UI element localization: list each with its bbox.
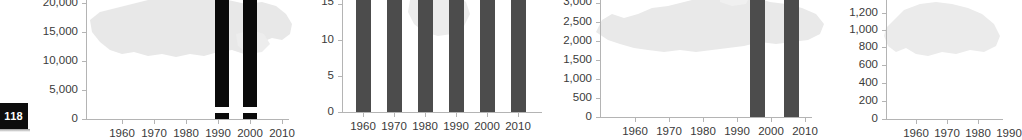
chart-panel-4: 0 200 400 600 800 1,000 1,200 1960 1970 … <box>830 0 1003 140</box>
y-tick-label-3-0: 0 <box>550 111 592 123</box>
x-tick-label-3-1980: 1980 <box>690 126 716 138</box>
x-axis-4 <box>886 119 1003 120</box>
y-tick-label-4-4: 800 <box>830 41 878 53</box>
chart-panel-1: 0 5,000 10,000 15,000 20,000 1960 1970 1… <box>0 0 300 140</box>
x-tick-2-1980 <box>425 112 426 117</box>
y-tick-1-4 <box>82 3 87 4</box>
y-tick-4-3 <box>882 65 887 66</box>
y-tick-3-1 <box>596 98 601 99</box>
bar-3-2010 <box>784 0 799 117</box>
x-tick-label-2-1970: 1970 <box>381 121 407 133</box>
y-tick-label-4-0: 0 <box>830 113 878 125</box>
map-silhouette-1 <box>86 0 300 72</box>
x-tick-label-1-1970: 1970 <box>141 128 167 140</box>
y-tick-2-3 <box>338 4 343 5</box>
x-tick-1-1990 <box>218 119 219 124</box>
y-tick-4-2 <box>882 83 887 84</box>
y-tick-4-6 <box>882 13 887 14</box>
y-tick-2-0 <box>338 112 343 113</box>
bar-1-2010 <box>243 0 257 119</box>
y-tick-label-2-3: 15 <box>300 0 334 8</box>
bar-2-2010 <box>511 0 526 112</box>
x-tick-4-1960 <box>916 119 917 124</box>
x-tick-1-2010 <box>282 119 283 124</box>
x-axis-1 <box>86 119 289 120</box>
x-tick-3-1970 <box>669 117 670 122</box>
x-tick-1-1960 <box>122 119 123 124</box>
x-tick-3-1980 <box>703 117 704 122</box>
x-axis-2 <box>342 112 542 113</box>
bar-2-1970 <box>387 0 402 112</box>
bar-2-1990 <box>449 0 464 112</box>
map-silhouette-4 <box>878 0 1008 76</box>
x-tick-2-1990 <box>456 112 457 117</box>
x-tick-label-4-1970: 1970 <box>934 128 960 140</box>
x-tick-2-1970 <box>394 112 395 117</box>
y-tick-4-1 <box>882 101 887 102</box>
bar-2-2000 <box>480 0 495 112</box>
bar-1-2000-gap <box>215 107 229 113</box>
y-tick-1-3 <box>82 32 87 33</box>
y-tick-label-3-3: 1,500 <box>550 54 592 66</box>
x-tick-label-3-2000: 2000 <box>758 126 784 138</box>
y-tick-label-3-6: 3,000 <box>550 0 592 8</box>
x-tick-label-1-1960: 1960 <box>109 128 135 140</box>
map-silhouette-2 <box>400 0 480 45</box>
y-tick-2-2 <box>338 40 343 41</box>
x-tick-3-1990 <box>737 117 738 122</box>
x-tick-label-3-1970: 1970 <box>656 126 682 138</box>
y-tick-label-4-1: 200 <box>830 95 878 107</box>
x-tick-1-1980 <box>186 119 187 124</box>
x-tick-label-4-1980: 1980 <box>965 128 991 140</box>
y-tick-1-1 <box>82 90 87 91</box>
x-tick-4-1970 <box>947 119 948 124</box>
x-tick-2-2010 <box>518 112 519 117</box>
x-tick-4-1980 <box>978 119 979 124</box>
y-tick-4-4 <box>882 47 887 48</box>
y-tick-label-2-2: 10 <box>300 34 334 46</box>
y-tick-label-2-1: 5 <box>300 70 334 82</box>
x-axis-3 <box>600 117 812 118</box>
x-tick-2-2000 <box>487 112 488 117</box>
y-tick-3-4 <box>596 41 601 42</box>
y-axis-3 <box>600 0 601 117</box>
y-tick-label-1-1: 5,000 <box>0 84 78 96</box>
y-tick-2-1 <box>338 76 343 77</box>
y-tick-label-2-0: 0 <box>300 106 334 118</box>
x-tick-3-2010 <box>805 117 806 122</box>
x-tick-3-2000 <box>771 117 772 122</box>
y-tick-1-2 <box>82 61 87 62</box>
x-tick-label-4-1990: 1990 <box>996 128 1022 140</box>
y-tick-1-0 <box>82 119 87 120</box>
x-tick-label-2-1990: 1990 <box>443 121 469 133</box>
y-axis-1 <box>86 0 87 119</box>
y-tick-label-3-2: 1,000 <box>550 73 592 85</box>
y-tick-label-4-5: 1,000 <box>830 24 878 36</box>
y-tick-3-5 <box>596 22 601 23</box>
y-tick-label-3-4: 2,000 <box>550 35 592 47</box>
y-tick-label-1-3: 15,000 <box>0 26 78 38</box>
y-tick-label-3-1: 500 <box>550 92 592 104</box>
y-tick-3-2 <box>596 79 601 80</box>
y-tick-4-5 <box>882 30 887 31</box>
y-tick-label-1-0: 0 <box>0 113 78 125</box>
x-tick-3-1960 <box>635 117 636 122</box>
x-tick-label-3-2010: 2010 <box>792 126 818 138</box>
y-tick-label-1-2: 10,000 <box>0 55 78 67</box>
x-tick-label-2-2010: 2010 <box>505 121 531 133</box>
bar-3-2000 <box>750 0 765 117</box>
bar-1-2000 <box>215 0 229 119</box>
bar-2-1960 <box>356 0 371 112</box>
x-tick-label-2-1960: 1960 <box>350 121 376 133</box>
chart-panel-3: 0 500 1,000 1,500 2,000 2,500 3,000 1960… <box>550 0 830 140</box>
y-tick-label-4-3: 600 <box>830 59 878 71</box>
y-tick-3-3 <box>596 60 601 61</box>
y-tick-4-0 <box>882 119 887 120</box>
y-tick-3-0 <box>596 117 601 118</box>
x-tick-label-4-1960: 1960 <box>903 128 929 140</box>
bar-1-2010-gap <box>243 107 257 113</box>
x-tick-label-3-1990: 1990 <box>724 126 750 138</box>
x-tick-1-2000 <box>250 119 251 124</box>
x-tick-label-2-1980: 1980 <box>412 121 438 133</box>
